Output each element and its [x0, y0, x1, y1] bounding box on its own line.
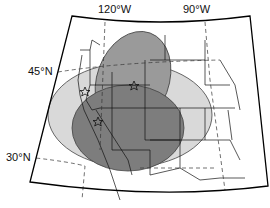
lon-label-120w: 120°W: [98, 4, 131, 15]
lat-label-45n: 45°N: [28, 66, 53, 77]
region-lower: [72, 85, 184, 171]
lat-label-30n: 30°N: [6, 152, 31, 163]
map-figure: [0, 0, 270, 208]
lon-label-90w: 90°W: [183, 4, 210, 15]
